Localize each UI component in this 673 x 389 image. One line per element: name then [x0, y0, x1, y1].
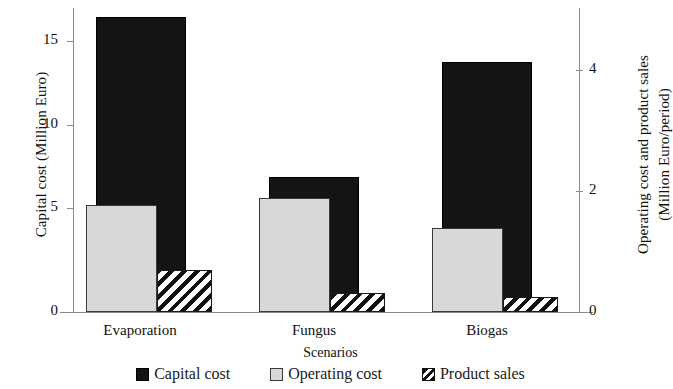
- legend-label-product-sales: Product sales: [440, 366, 525, 382]
- right-tick-label-4: 4: [589, 60, 625, 77]
- legend-label-capital-cost: Capital cost: [154, 366, 230, 382]
- chart-legend: Capital cost Operating cost Product sale…: [0, 366, 661, 382]
- left-tick-10: [67, 125, 74, 126]
- legend-label-operating-cost: Operating cost: [288, 366, 382, 382]
- left-tick-15: [67, 41, 74, 42]
- x-axis-title: Scenarios: [0, 345, 661, 361]
- left-tick-label-15: 15: [22, 31, 58, 48]
- right-tick-0: [576, 312, 590, 313]
- bar-operating-cost-evaporation: [86, 205, 157, 312]
- right-tick-label-2: 2: [589, 181, 625, 198]
- left-tick-label-10: 10: [22, 115, 58, 132]
- plot-area: [74, 8, 579, 312]
- right-tick-label-0: 0: [589, 302, 625, 319]
- bar-product-sales-biogas: [503, 297, 558, 312]
- left-axis-title: Capital cost (Million Euro): [33, 10, 50, 300]
- x-tick-label-fungus: Fungus: [254, 322, 374, 339]
- x-tick-label-evaporation: Evaporation: [80, 322, 200, 339]
- hatched-square-icon: [422, 368, 435, 381]
- bar-operating-cost-fungus: [259, 198, 330, 312]
- left-tick-label-5: 5: [22, 198, 58, 215]
- bar-product-sales-evaporation: [157, 270, 212, 312]
- right-axis-title-line1: Operating cost and product sales: [635, 10, 652, 300]
- right-axis-line: [579, 8, 580, 313]
- x-tick-label-biogas: Biogas: [427, 322, 547, 339]
- right-axis-title-line2: (Million Euro/period): [656, 10, 673, 300]
- left-tick-label-0: 0: [22, 302, 58, 319]
- x-axis-line: [60, 312, 593, 313]
- filled-black-square-icon: [136, 368, 149, 381]
- legend-item-product-sales: Product sales: [422, 366, 525, 382]
- legend-item-capital-cost: Capital cost: [136, 366, 230, 382]
- legend-item-operating-cost: Operating cost: [270, 366, 382, 382]
- bar-product-sales-fungus: [330, 293, 385, 312]
- left-tick-5: [67, 208, 74, 209]
- left-tick-0: [60, 312, 74, 313]
- bar-operating-cost-biogas: [432, 228, 503, 312]
- light-gray-square-icon: [270, 368, 283, 381]
